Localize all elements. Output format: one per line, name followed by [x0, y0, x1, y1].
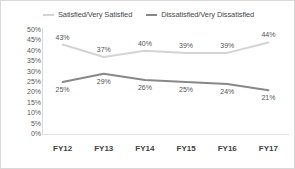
x-axis-tick-label: FY12 — [53, 144, 72, 154]
legend-line-marker-satisfied-icon — [43, 14, 54, 16]
y-axis-tick-label: 0% — [31, 130, 41, 138]
legend-item-satisfied[interactable]: Satisfied/Very Satisfied — [43, 10, 132, 19]
x-axis: FY12FY13FY14FY15FY16FY17 — [42, 144, 289, 158]
y-axis-tick-label: 50% — [27, 26, 41, 34]
x-axis-tick-label: FY14 — [135, 144, 154, 154]
y-axis-tick-label: 10% — [27, 109, 41, 117]
y-axis-tick-label: 5% — [31, 120, 41, 128]
x-axis-tick-label: FY15 — [177, 144, 196, 154]
x-axis-line — [42, 134, 289, 135]
legend-line-marker-dissatisfied-icon — [146, 14, 157, 16]
data-label: 26% — [138, 84, 152, 92]
data-label: 40% — [138, 40, 152, 48]
data-label: 25% — [179, 86, 193, 94]
line-chart-container: Satisfied/Very Satisfied Dissatisfied/Ve… — [0, 0, 295, 169]
y-axis: 50%45%40%35%30%25%20%15%10%5%0% — [21, 26, 41, 138]
legend-label-dissatisfied: Dissatisfied/Very Dissatisfied — [161, 10, 254, 19]
data-label: 39% — [220, 42, 234, 50]
data-label: 44% — [261, 31, 275, 39]
data-label: 29% — [97, 78, 111, 86]
data-label: 24% — [220, 88, 234, 96]
data-label: 43% — [56, 34, 70, 42]
series-lines — [42, 30, 289, 134]
data-label: 25% — [56, 86, 70, 94]
legend-item-dissatisfied[interactable]: Dissatisfied/Very Dissatisfied — [146, 10, 254, 19]
y-axis-tick-label: 30% — [27, 68, 41, 76]
legend-label-satisfied: Satisfied/Very Satisfied — [58, 10, 132, 19]
x-axis-tick-label: FY13 — [94, 144, 113, 154]
x-axis-tick-label: FY16 — [218, 144, 237, 154]
y-axis-tick-label: 40% — [27, 47, 41, 55]
data-label: 21% — [261, 94, 275, 102]
series-line-satisfied — [63, 42, 269, 57]
plot-area — [42, 30, 289, 134]
y-axis-tick-label: 45% — [27, 36, 41, 44]
data-label: 39% — [179, 42, 193, 50]
chart-legend: Satisfied/Very Satisfied Dissatisfied/Ve… — [1, 10, 295, 19]
y-axis-tick-label: 35% — [27, 57, 41, 65]
y-axis-tick-label: 25% — [27, 78, 41, 86]
data-label: 37% — [97, 46, 111, 54]
y-axis-tick-label: 20% — [27, 88, 41, 96]
x-axis-tick-label: FY17 — [259, 144, 278, 154]
series-line-dissatisfied — [63, 74, 269, 91]
y-axis-tick-label: 15% — [27, 99, 41, 107]
